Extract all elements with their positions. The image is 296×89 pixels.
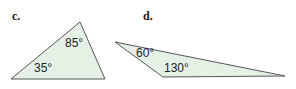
angle-c-bottom-left: 35° [34, 61, 52, 75]
figure-d-label: d. [143, 9, 153, 23]
figure-c: c. 85° 35° [11, 9, 105, 79]
figure-d: d. 60° 130° [115, 9, 285, 77]
angle-c-top: 85° [65, 36, 83, 50]
triangles-figure: c. 85° 35° d. 60° 130° [0, 0, 296, 89]
triangle-c [11, 22, 105, 79]
angle-d-bottom-left: 130° [164, 61, 189, 75]
angle-d-left: 60° [136, 46, 154, 60]
figure-c-label: c. [12, 9, 20, 23]
diagram-canvas: c. 85° 35° d. 60° 130° [0, 0, 296, 89]
